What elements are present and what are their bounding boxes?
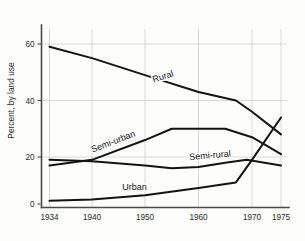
- x-tick-label-1975: 1975: [272, 213, 291, 222]
- series-label-semi-rural: Semi-rural: [189, 148, 231, 162]
- x-tick-label-1934: 1934: [40, 213, 59, 222]
- x-tick-label-1970: 1970: [243, 213, 262, 222]
- series-labels-group: RuralRuralSemi-urbanSemi-urbanSemi-rural…: [90, 69, 231, 192]
- x-tick-label-1960: 1960: [189, 213, 208, 222]
- x-tick-label-1950: 1950: [136, 213, 155, 222]
- y-tick-label-20: 20: [25, 153, 35, 162]
- y-tick-label-origin: 0: [30, 200, 35, 209]
- series-label-semi-urban: Semi-urban: [90, 128, 137, 154]
- x-tick-label-1940: 1940: [83, 213, 102, 222]
- series-label-rural: Rural: [151, 69, 174, 85]
- x-tick-labels-group: 193419401950196019701975: [40, 213, 290, 222]
- y-tick-label-40: 40: [25, 97, 35, 106]
- gridlines-group: [42, 29, 288, 208]
- y-tick-labels-group: 2040600: [25, 40, 35, 209]
- series-label-urban: Urban: [122, 182, 147, 192]
- y-tick-label-60: 60: [25, 40, 35, 49]
- y-axis-title: Percent, by land use: [6, 62, 16, 139]
- chart-container: 2040600 193419401950196019701975 RuralRu…: [0, 0, 305, 241]
- line-chart: 2040600 193419401950196019701975 RuralRu…: [0, 0, 305, 241]
- series-line-rural: [50, 47, 282, 135]
- axis-titles-group: Percent, by land use: [6, 62, 16, 139]
